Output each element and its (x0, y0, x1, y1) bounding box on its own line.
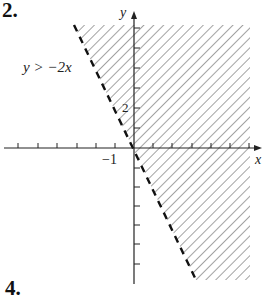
x-axis-arrow-icon (254, 145, 262, 151)
x-tick-label: −1 (102, 152, 117, 168)
shaded-region (60, 20, 260, 285)
y-axis-arrow-icon (131, 11, 137, 19)
x-axis-label: x (255, 152, 261, 168)
y-axis-label: y (120, 5, 126, 21)
inequality-label: y > −2x (22, 59, 73, 76)
y-tick-label: 2 (122, 100, 129, 116)
